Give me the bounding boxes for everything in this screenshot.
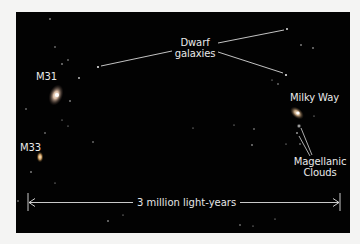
magellanic-pointer-lines bbox=[299, 128, 312, 156]
milky-way-label: Milky Way bbox=[290, 92, 339, 103]
m33-galaxy bbox=[37, 152, 44, 163]
dwarf-label-line2: galaxies bbox=[170, 48, 220, 59]
magellanic-clouds-label: Magellanic Clouds bbox=[288, 156, 352, 178]
scale-bar-label: 3 million light-years bbox=[133, 197, 240, 208]
m31-label: M31 bbox=[36, 71, 57, 82]
dwarf-galaxies-label: Dwarf galaxies bbox=[170, 37, 220, 59]
m33-label: M33 bbox=[20, 142, 41, 153]
magellanic-label-line1: Magellanic bbox=[288, 156, 352, 167]
magellanic-label-line2: Clouds bbox=[288, 167, 352, 178]
background-stars bbox=[17, 18, 314, 226]
small-magellanic-cloud bbox=[295, 131, 298, 134]
large-magellanic-cloud bbox=[297, 124, 302, 129]
dwarf-label-line1: Dwarf bbox=[170, 37, 220, 48]
